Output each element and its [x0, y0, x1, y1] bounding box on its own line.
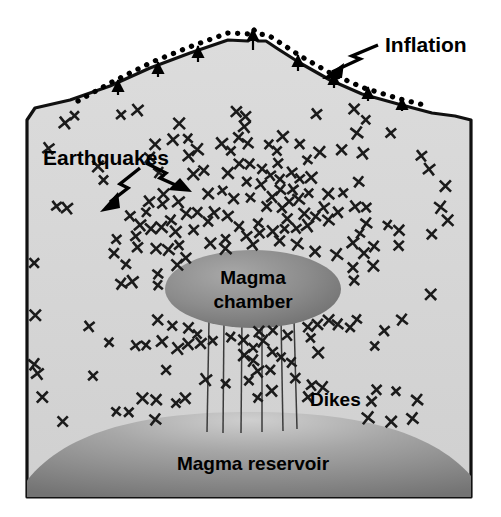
magma-chamber-ellipse [165, 250, 341, 328]
magma-chamber [165, 250, 341, 328]
dike-line [223, 318, 224, 433]
inflation-callout-arrow [322, 45, 378, 79]
label-earthquakes: Earthquakes [43, 146, 169, 169]
label-magma-reservoir: Magma reservoir [177, 453, 330, 474]
dike-line [241, 317, 242, 433]
label-dikes: Dikes [310, 389, 361, 410]
label-magma-chamber-line1: Magma [220, 267, 286, 288]
label-magma-chamber-line2: chamber [213, 291, 293, 312]
label-inflation: Inflation [385, 33, 467, 56]
volcano-diagram: Inflation Earthquakes Magma chamber Dike… [0, 0, 501, 517]
